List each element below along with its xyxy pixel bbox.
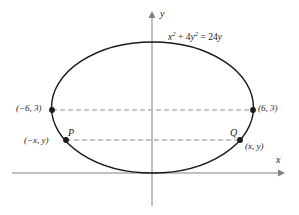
x-axis-arrow-icon [278,170,285,177]
label-point-p-coord: (−x, y) [24,136,49,145]
y-axis [149,11,156,206]
label-left-vertex-coord: (−6, 3) [16,104,42,113]
point-marker-right-vertex [250,107,256,113]
x-axis-label: x [276,155,280,165]
graph-canvas [0,0,299,215]
y-axis-arrow-icon [149,11,156,18]
label-point-q-name: Q [230,128,237,138]
eq-plus: + 4 [176,32,191,42]
eq-equals: = 24 [198,32,218,42]
ellipse-figure: y x x2 + 4y2 = 24y (−6, 3) (6, 3) P (−x,… [0,0,299,215]
label-right-vertex-coord: (6, 3) [258,104,278,113]
eq-rhs-var: y [218,32,222,42]
curve-equation-label: x2 + 4y2 = 24y [168,33,222,43]
label-point-q-coord: (x, y) [245,142,263,151]
point-marker-left-vertex [49,107,55,113]
y-axis-label: y [160,9,164,19]
point-marker-q [237,137,243,143]
label-point-p-name: P [68,128,74,138]
